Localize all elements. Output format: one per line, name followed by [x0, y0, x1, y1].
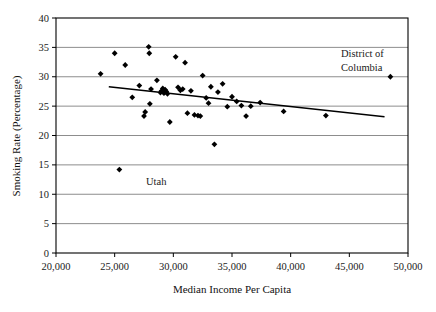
y-axis-title: Smoking Rate (Percentage) [10, 75, 23, 196]
scatter-chart-figure: 0510152025303540 20,00025,00030,00035,00… [0, 0, 436, 312]
x-tick-label-40000: 40,000 [276, 261, 305, 272]
y-tick-label-30: 30 [39, 71, 50, 82]
y-tick-label-10: 10 [39, 189, 50, 200]
annotation-dc-line-1: District of [341, 48, 384, 59]
plot-svg: 0510152025303540 20,00025,00030,00035,00… [0, 0, 436, 312]
y-tick-label-5: 5 [44, 218, 49, 229]
annotation-dc-line-2: Columbia [341, 62, 383, 73]
y-tick-label-15: 15 [39, 159, 50, 170]
x-tick-label-45000: 45,000 [335, 261, 364, 272]
y-tick-label-20: 20 [39, 130, 50, 141]
y-tick-label-35: 35 [39, 42, 50, 53]
x-tick-label-30000: 30,000 [159, 261, 188, 272]
x-tick-label-25000: 25,000 [100, 261, 129, 272]
y-tick-label-40: 40 [39, 13, 50, 24]
annotation-utah-line-1: Utah [146, 176, 167, 187]
x-tick-label-35000: 35,000 [218, 261, 247, 272]
annotation-utah: Utah [146, 176, 167, 187]
y-tick-label-0: 0 [44, 248, 49, 259]
y-tick-label-25: 25 [39, 101, 50, 112]
x-axis-title: Median Income Per Capita [173, 283, 291, 295]
x-tick-label-20000: 20,000 [42, 261, 71, 272]
x-tick-label-50000: 50,000 [394, 261, 423, 272]
